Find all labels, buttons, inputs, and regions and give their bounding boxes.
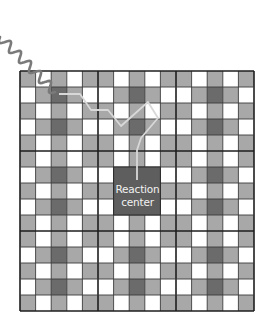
pigment-cell xyxy=(51,295,67,311)
pigment-cell xyxy=(176,167,192,183)
pigment-cell xyxy=(98,167,114,183)
pigment-cell xyxy=(36,151,52,167)
pigment-cell xyxy=(51,103,67,119)
pigment-cell xyxy=(176,231,192,247)
pigment-cell xyxy=(82,263,98,279)
pigment-cell xyxy=(192,231,208,247)
pigment-cell xyxy=(129,247,145,263)
pigment-cell xyxy=(20,151,36,167)
pigment-cell xyxy=(67,215,83,231)
pigment-cell xyxy=(207,71,223,87)
pigment-cell xyxy=(36,247,52,263)
pigment-cell xyxy=(129,295,145,311)
pigment-cell xyxy=(67,119,83,135)
pigment-cell xyxy=(82,103,98,119)
pigment-cell xyxy=(114,215,130,231)
pigment-cell xyxy=(145,279,161,295)
pigment-cell xyxy=(160,135,176,151)
pigment-cell xyxy=(238,167,254,183)
pigment-cell xyxy=(114,135,130,151)
pigment-cell xyxy=(36,135,52,151)
pigment-cell xyxy=(223,199,239,215)
pigment-cell xyxy=(192,71,208,87)
pigment-cell xyxy=(51,199,67,215)
pigment-cell xyxy=(98,215,114,231)
pigment-cell xyxy=(51,263,67,279)
pigment-cell xyxy=(98,231,114,247)
pigment-cell xyxy=(67,247,83,263)
pigment-cell xyxy=(207,167,223,183)
pigment-cell xyxy=(160,183,176,199)
pigment-cell xyxy=(20,247,36,263)
pigment-cell xyxy=(51,247,67,263)
pigment-cell xyxy=(67,295,83,311)
pigment-cell xyxy=(36,199,52,215)
pigment-cell xyxy=(82,247,98,263)
pigment-cell xyxy=(20,199,36,215)
pigment-cell xyxy=(98,183,114,199)
pigment-cell xyxy=(223,263,239,279)
pigment-cell xyxy=(129,231,145,247)
pigment-cell xyxy=(145,215,161,231)
pigment-cell xyxy=(67,167,83,183)
pigment-cell xyxy=(238,247,254,263)
pigment-cell xyxy=(176,87,192,103)
pigment-cell xyxy=(238,183,254,199)
pigment-cell xyxy=(67,183,83,199)
pigment-cell xyxy=(176,295,192,311)
pigment-cell xyxy=(160,71,176,87)
pigment-cell xyxy=(176,135,192,151)
pigment-cell xyxy=(114,263,130,279)
pigment-cell xyxy=(238,103,254,119)
pigment-cell xyxy=(145,71,161,87)
pigment-cell xyxy=(223,295,239,311)
pigment-cell xyxy=(160,167,176,183)
pigment-cell xyxy=(192,279,208,295)
pigment-cell xyxy=(160,231,176,247)
pigment-cell xyxy=(176,215,192,231)
pigment-cell xyxy=(192,151,208,167)
pigment-cell xyxy=(67,263,83,279)
pigment-cell xyxy=(145,231,161,247)
pigment-cell xyxy=(20,103,36,119)
pigment-cell xyxy=(223,247,239,263)
pigment-cell xyxy=(207,263,223,279)
pigment-cell xyxy=(36,71,52,87)
pigment-cell xyxy=(20,279,36,295)
pigment-cell xyxy=(82,295,98,311)
pigment-cell xyxy=(51,151,67,167)
pigment-cell xyxy=(82,215,98,231)
pigment-cell xyxy=(145,135,161,151)
pigment-cell xyxy=(98,103,114,119)
pigment-cell xyxy=(51,279,67,295)
pigment-cell xyxy=(129,87,145,103)
pigment-cell xyxy=(82,71,98,87)
pigment-cell xyxy=(223,215,239,231)
antenna-complex-diagram xyxy=(0,0,267,329)
pigment-cell xyxy=(51,135,67,151)
pigment-cell xyxy=(145,247,161,263)
pigment-cell xyxy=(98,279,114,295)
pigment-cell xyxy=(192,167,208,183)
pigment-cell xyxy=(67,199,83,215)
pigment-cell xyxy=(207,247,223,263)
pigment-cell xyxy=(160,199,176,215)
pigment-cell xyxy=(223,167,239,183)
pigment-cell xyxy=(20,231,36,247)
pigment-cell xyxy=(51,167,67,183)
pigment-cell xyxy=(223,183,239,199)
pigment-cell xyxy=(176,247,192,263)
pigment-cell xyxy=(192,247,208,263)
pigment-cell xyxy=(82,183,98,199)
pigment-cell xyxy=(36,119,52,135)
pigment-cell xyxy=(238,71,254,87)
pigment-cell xyxy=(192,103,208,119)
pigment-cell xyxy=(114,87,130,103)
pigment-cell xyxy=(98,151,114,167)
pigment-cell xyxy=(160,263,176,279)
pigment-cell xyxy=(192,119,208,135)
pigment-cell xyxy=(223,135,239,151)
pigment-cell xyxy=(207,295,223,311)
pigment-cell xyxy=(223,151,239,167)
pigment-cell xyxy=(160,279,176,295)
